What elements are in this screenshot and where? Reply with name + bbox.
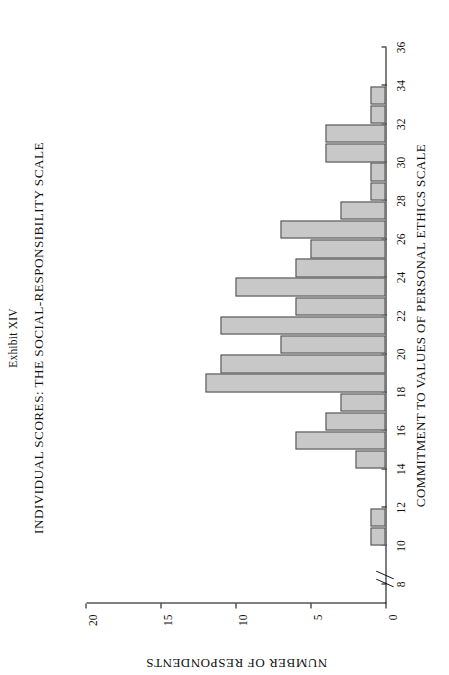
x-tick-label-28: 28 <box>394 195 406 207</box>
x-tick-label-14: 14 <box>394 463 406 475</box>
x-tick-label-20: 20 <box>394 348 406 360</box>
y-tick-15 <box>160 603 161 608</box>
bar-score-17 <box>340 393 385 411</box>
exhibit-label: Exhibit XIV <box>6 0 18 675</box>
x-tick-label-36: 36 <box>394 41 406 53</box>
x-tick-label-10: 10 <box>394 540 406 552</box>
x-tick-label-8: 8 <box>394 581 406 587</box>
rotated-figure-canvas: Exhibit XIV INDIVIDUAL SCORES: THE SOCIA… <box>0 0 449 675</box>
x-tick-label-34: 34 <box>394 80 406 92</box>
x-tick-label-22: 22 <box>394 310 406 322</box>
x-axis-label: COMMITMENT TO VALUES OF PERSONAL ETHICS … <box>412 47 428 603</box>
x-tick-label-26: 26 <box>394 233 406 245</box>
x-tick-12 <box>381 506 386 507</box>
bar-score-29 <box>370 162 385 180</box>
bar-score-19 <box>220 354 385 372</box>
bar-score-24 <box>295 258 385 276</box>
axis-break-marks <box>375 563 395 589</box>
chart-figure: Exhibit XIV INDIVIDUAL SCORES: THE SOCIA… <box>0 0 449 675</box>
page-title: INDIVIDUAL SCORES: THE SOCIAL-RESPONSIBI… <box>30 0 46 675</box>
y-axis-label: NUMBER OF RESPONDENTS <box>145 654 326 670</box>
x-tick-label-12: 12 <box>394 501 406 513</box>
bar-score-10 <box>370 527 385 545</box>
plot-area: 81012141618202224262830323436 05101520 <box>86 47 386 603</box>
bar-score-31 <box>325 124 385 142</box>
x-tick-36 <box>381 46 386 47</box>
x-tick-label-16: 16 <box>394 425 406 437</box>
bar-score-18 <box>205 373 385 391</box>
bar-score-15 <box>295 431 385 449</box>
y-tick-5 <box>310 603 311 608</box>
bar-score-25 <box>310 239 385 257</box>
bar-score-22 <box>295 297 385 315</box>
bar-score-20 <box>280 335 385 353</box>
y-tick-0 <box>385 603 386 608</box>
x-tick-label-30: 30 <box>394 156 406 168</box>
bar-score-33 <box>370 86 385 104</box>
bar-score-16 <box>325 412 385 430</box>
y-tick-10 <box>235 603 236 608</box>
x-tick-8 <box>381 583 386 584</box>
bar-score-28 <box>370 182 385 200</box>
y-tick-20 <box>85 603 86 608</box>
bar-score-23 <box>235 277 385 295</box>
bar-score-14 <box>355 450 385 468</box>
bar-score-30 <box>325 143 385 161</box>
x-tick-label-32: 32 <box>394 118 406 130</box>
x-tick-label-18: 18 <box>394 386 406 398</box>
bar-score-11 <box>370 508 385 526</box>
bar-score-21 <box>220 316 385 334</box>
x-tick-34 <box>381 84 386 85</box>
bar-score-26 <box>280 220 385 238</box>
bar-score-32 <box>370 105 385 123</box>
y-axis-label-wrapper: NUMBER OF RESPONDENTS <box>86 649 386 675</box>
x-tick-label-24: 24 <box>394 271 406 283</box>
bar-score-27 <box>340 201 385 219</box>
